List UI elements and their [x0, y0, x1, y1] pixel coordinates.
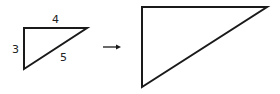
- label-side-left: 3: [12, 43, 19, 56]
- arrow-right-icon: [103, 45, 121, 50]
- large-triangle: [142, 7, 267, 87]
- label-hypotenuse: 5: [60, 51, 67, 64]
- small-triangle: [24, 28, 87, 69]
- diagram-canvas: 4 3 5: [0, 0, 280, 94]
- label-side-top: 4: [52, 13, 59, 26]
